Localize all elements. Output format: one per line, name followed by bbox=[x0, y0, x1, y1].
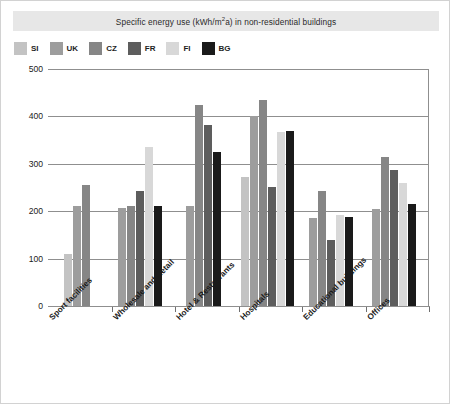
y-tick-label: 0 bbox=[13, 301, 43, 311]
bar-group-0 bbox=[64, 69, 90, 306]
x-tick-3 bbox=[302, 307, 303, 312]
bar-fi-3[interactable] bbox=[277, 132, 285, 306]
right-axis-line bbox=[428, 69, 429, 306]
y-axis-labels: 0100200300400500 bbox=[9, 69, 43, 306]
bar-bg-3[interactable] bbox=[286, 131, 294, 306]
y-tick-label: 100 bbox=[13, 254, 43, 264]
y-tick-label: 200 bbox=[13, 206, 43, 216]
bar-cz-2[interactable] bbox=[195, 105, 203, 306]
x-tick-5 bbox=[429, 307, 430, 312]
bar-uk-4[interactable] bbox=[309, 218, 317, 306]
bar-group-3 bbox=[241, 69, 294, 306]
x-tick-1 bbox=[175, 307, 176, 312]
bar-group-2 bbox=[186, 69, 221, 306]
y-tick-label: 400 bbox=[13, 111, 43, 121]
bar-fi-5[interactable] bbox=[399, 183, 407, 306]
x-tick-2 bbox=[239, 307, 240, 312]
bar-uk-2[interactable] bbox=[186, 206, 194, 306]
y-tick-label: 500 bbox=[13, 64, 43, 74]
bar-cz-5[interactable] bbox=[381, 157, 389, 306]
bar-fr-3[interactable] bbox=[268, 187, 276, 306]
bar-uk-5[interactable] bbox=[372, 209, 380, 306]
bar-si-3[interactable] bbox=[241, 177, 249, 306]
bar-cz-4[interactable] bbox=[318, 191, 326, 306]
bar-group-5 bbox=[372, 69, 416, 306]
bar-bg-1[interactable] bbox=[154, 206, 162, 306]
bar-bg-5[interactable] bbox=[408, 204, 416, 306]
bar-cz-3[interactable] bbox=[259, 100, 267, 306]
x-tick-4 bbox=[366, 307, 367, 312]
bar-fr-5[interactable] bbox=[390, 170, 398, 307]
chart-card: Specific energy use (kWh/m2a) in non-res… bbox=[0, 0, 450, 404]
bar-uk-1[interactable] bbox=[118, 208, 126, 306]
plot-region: 0100200300400500 Sport facilitiesWholesa… bbox=[1, 1, 450, 404]
bar-uk-3[interactable] bbox=[250, 116, 258, 306]
bar-cz-1[interactable] bbox=[127, 206, 135, 306]
y-tick-label: 300 bbox=[13, 159, 43, 169]
bar-bg-4[interactable] bbox=[345, 217, 353, 306]
plot-area bbox=[48, 69, 429, 306]
x-tick-0 bbox=[112, 307, 113, 312]
